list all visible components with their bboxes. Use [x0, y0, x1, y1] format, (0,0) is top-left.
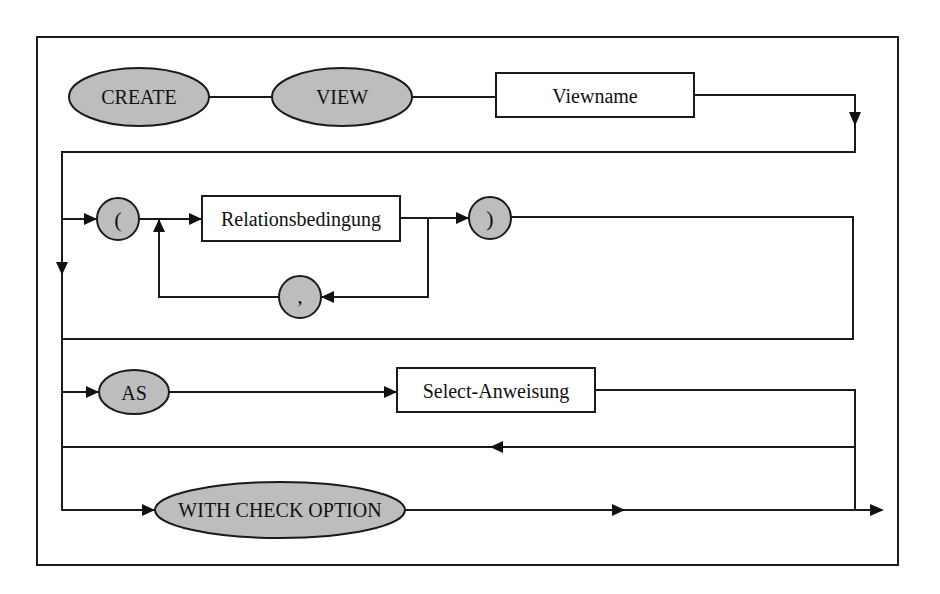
arrow-right-icon: [86, 386, 99, 398]
nonterminal-select-anweisung-label: Select-Anweisung: [423, 380, 570, 403]
terminal-as: AS: [99, 370, 169, 414]
terminal-view-label: VIEW: [316, 86, 368, 108]
nonterminal-relationsbedingung: Relationsbedingung: [202, 196, 400, 241]
terminal-create-label: CREATE: [101, 86, 177, 108]
terminal-open-paren: (: [97, 198, 139, 240]
arrow-down-icon: [849, 112, 861, 126]
nonterminal-viewname-label: Viewname: [552, 85, 638, 107]
end-arrow-icon: [870, 504, 884, 516]
arrow-right-icon: [84, 213, 97, 225]
arrow-right-icon: [456, 212, 469, 224]
syntax-diagram: CREATE VIEW Viewname ( Relationsbedingun…: [0, 0, 940, 594]
arrow-right-icon: [384, 386, 397, 398]
arrow-left-icon: [321, 291, 334, 303]
terminal-create: CREATE: [69, 68, 209, 126]
terminal-view: VIEW: [272, 68, 412, 126]
arrow-right-icon: [612, 504, 625, 516]
arrow-down-icon: [56, 262, 68, 275]
nonterminal-relationsbedingung-label: Relationsbedingung: [221, 208, 381, 231]
nonterminal-viewname: Viewname: [496, 73, 694, 117]
connector-select-right: [595, 390, 855, 510]
terminal-with-check-option-label: WITH CHECK OPTION: [178, 499, 381, 521]
arrow-left-icon: [490, 441, 503, 453]
connector-close-paren-return: [62, 217, 853, 339]
terminal-comma-label: ,: [297, 283, 303, 308]
arrow-right-icon: [189, 213, 202, 225]
terminal-close-paren-label: ): [486, 206, 493, 231]
arrow-up-icon: [153, 219, 165, 232]
terminal-open-paren-label: (: [114, 207, 121, 232]
terminal-as-label: AS: [121, 382, 147, 404]
terminal-close-paren: ): [469, 197, 511, 239]
arrow-right-icon: [142, 504, 155, 516]
terminal-comma: ,: [279, 276, 321, 318]
nonterminal-select-anweisung: Select-Anweisung: [397, 368, 595, 412]
terminal-with-check-option: WITH CHECK OPTION: [155, 482, 405, 538]
